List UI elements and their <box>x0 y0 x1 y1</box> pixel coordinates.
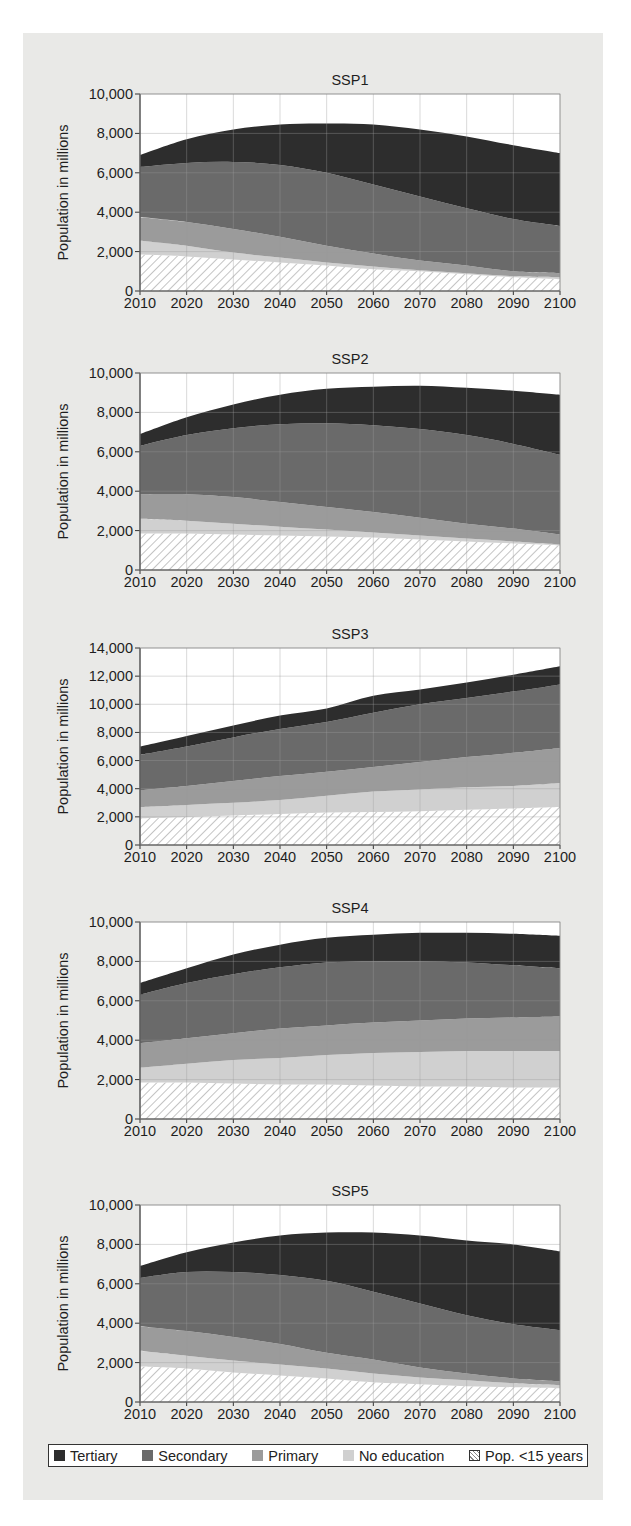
y-tick-label: 6,000 <box>97 993 133 1009</box>
x-tick-label: 2040 <box>264 574 296 590</box>
legend-swatch-hatch-icon <box>469 1450 480 1461</box>
x-tick-label: 2050 <box>311 574 343 590</box>
chart-title: SSP3 <box>331 626 368 642</box>
x-tick-label: 2100 <box>544 849 576 865</box>
x-tick-label: 2070 <box>404 849 436 865</box>
x-tick-label: 2030 <box>217 295 249 311</box>
y-tick-label: 8,000 <box>97 724 133 740</box>
x-tick-label: 2040 <box>264 1123 296 1139</box>
x-tick-label: 2050 <box>311 1406 343 1422</box>
x-tick-label: 2050 <box>311 849 343 865</box>
y-tick-label: 4,000 <box>97 1315 133 1331</box>
x-tick-label: 2040 <box>264 295 296 311</box>
x-tick-label: 2100 <box>544 1406 576 1422</box>
x-tick-label: 2090 <box>497 1406 529 1422</box>
y-tick-label: 0 <box>125 283 133 299</box>
chart-title: SSP2 <box>331 351 368 367</box>
legend-swatch-secondary-icon <box>142 1450 153 1461</box>
y-tick-label: 4,000 <box>97 204 133 220</box>
x-tick-label: 2060 <box>357 574 389 590</box>
legend-item-under-15: Pop. <15 years <box>469 1448 583 1464</box>
y-tick-label: 2,000 <box>97 244 133 260</box>
x-tick-label: 2070 <box>404 1406 436 1422</box>
x-tick-label: 2080 <box>451 1123 483 1139</box>
legend-swatch-primary-icon <box>252 1450 263 1461</box>
x-tick-label: 2020 <box>171 1406 203 1422</box>
y-tick-label: 8,000 <box>97 953 133 969</box>
x-tick-label: 2030 <box>217 574 249 590</box>
x-tick-label: 2030 <box>217 1123 249 1139</box>
x-tick-label: 2020 <box>171 1123 203 1139</box>
legend-label: No education <box>359 1448 444 1464</box>
y-tick-label: 6,000 <box>97 1276 133 1292</box>
x-tick-label: 2050 <box>311 1123 343 1139</box>
y-tick-label: 2,000 <box>97 523 133 539</box>
x-tick-label: 2060 <box>357 295 389 311</box>
legend-label: Tertiary <box>70 1448 118 1464</box>
y-tick-label: 10,000 <box>89 696 133 712</box>
chart-panel-ssp3: 2010202020302040205020602070208020902100… <box>55 626 576 865</box>
x-tick-label: 2090 <box>497 849 529 865</box>
x-tick-label: 2080 <box>451 295 483 311</box>
y-tick-label: 10,000 <box>89 86 133 102</box>
x-tick-label: 2060 <box>357 849 389 865</box>
x-tick-label: 2070 <box>404 1123 436 1139</box>
x-tick-label: 2090 <box>497 1123 529 1139</box>
x-tick-label: 2100 <box>544 295 576 311</box>
x-tick-label: 2090 <box>497 574 529 590</box>
y-tick-label: 10,000 <box>89 1197 133 1213</box>
y-tick-label: 2,000 <box>97 1072 133 1088</box>
x-tick-label: 2030 <box>217 1406 249 1422</box>
legend-label: Primary <box>268 1448 318 1464</box>
x-tick-label: 2080 <box>451 1406 483 1422</box>
chart-title: SSP5 <box>331 1183 368 1199</box>
x-tick-label: 2020 <box>171 295 203 311</box>
y-tick-label: 6,000 <box>97 753 133 769</box>
x-tick-label: 2090 <box>497 295 529 311</box>
legend-swatch-tertiary-icon <box>54 1450 65 1461</box>
y-tick-label: 8,000 <box>97 1236 133 1252</box>
legend-item-primary: Primary <box>252 1448 318 1464</box>
y-tick-label: 10,000 <box>89 365 133 381</box>
y-tick-label: 14,000 <box>89 640 133 656</box>
legend-label: Pop. <15 years <box>485 1448 583 1464</box>
y-tick-label: 2,000 <box>97 809 133 825</box>
y-tick-label: 12,000 <box>89 668 133 684</box>
y-axis-label: Population in millions <box>55 124 71 260</box>
y-tick-label: 10,000 <box>89 914 133 930</box>
x-tick-label: 2070 <box>404 295 436 311</box>
y-tick-label: 0 <box>125 562 133 578</box>
y-tick-label: 4,000 <box>97 1032 133 1048</box>
y-axis-label: Population in millions <box>55 403 71 539</box>
x-tick-label: 2020 <box>171 849 203 865</box>
x-tick-label: 2060 <box>357 1123 389 1139</box>
chart-panel-ssp5: 2010202020302040205020602070208020902100… <box>55 1183 576 1422</box>
y-tick-label: 6,000 <box>97 165 133 181</box>
legend-item-secondary: Secondary <box>142 1448 227 1464</box>
y-axis-label: Population in millions <box>55 678 71 814</box>
x-tick-label: 2060 <box>357 1406 389 1422</box>
x-tick-label: 2080 <box>451 849 483 865</box>
area-pop-15-years <box>140 1083 560 1119</box>
chart-title: SSP1 <box>331 72 368 88</box>
legend-item-no-education: No education <box>343 1448 444 1464</box>
chart-panel-ssp4: 2010202020302040205020602070208020902100… <box>55 900 576 1139</box>
legend-swatch-no-education-icon <box>343 1450 354 1461</box>
chart-panel-ssp1: 2010202020302040205020602070208020902100… <box>55 72 576 311</box>
y-tick-label: 2,000 <box>97 1355 133 1371</box>
legend-label: Secondary <box>158 1448 227 1464</box>
chart-panel-ssp2: 2010202020302040205020602070208020902100… <box>55 351 576 590</box>
x-tick-label: 2050 <box>311 295 343 311</box>
y-tick-label: 6,000 <box>97 444 133 460</box>
x-tick-label: 2100 <box>544 574 576 590</box>
chart-title: SSP4 <box>331 900 368 916</box>
legend-item-tertiary: Tertiary <box>54 1448 118 1464</box>
y-tick-label: 0 <box>125 1394 133 1410</box>
chart-legend: Tertiary Secondary Primary No education … <box>48 1444 588 1467</box>
y-tick-label: 0 <box>125 837 133 853</box>
x-tick-label: 2080 <box>451 574 483 590</box>
x-tick-label: 2020 <box>171 574 203 590</box>
x-tick-label: 2030 <box>217 849 249 865</box>
y-axis-label: Population in millions <box>55 952 71 1088</box>
y-tick-label: 8,000 <box>97 125 133 141</box>
